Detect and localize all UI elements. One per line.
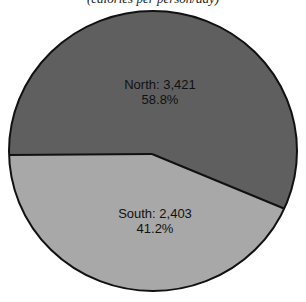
pie-chart: North: 3,421 58.8% South: 2,403 41.2% <box>0 0 306 302</box>
slice-divider-left <box>0 154 152 155</box>
north-label-value: North: 3,421 <box>124 77 196 92</box>
south-label-value: South: 2,403 <box>118 206 192 221</box>
north-label-percent: 58.8% <box>142 92 179 107</box>
south-label-percent: 41.2% <box>137 221 174 236</box>
